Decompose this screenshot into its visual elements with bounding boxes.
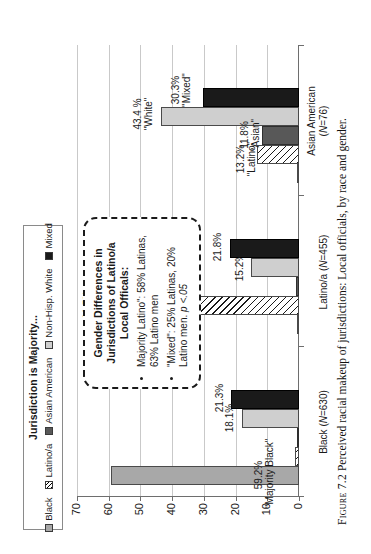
- datalabel-asian-mixed: 30.3% "Mixed": [170, 65, 192, 115]
- datalabel-latino-white: 15.2%: [234, 247, 245, 287]
- legend-swatch-asian-icon: [44, 427, 52, 435]
- callout-bullet-2: "Mixed": 25% Latinas, 20% Latino men. p …: [165, 228, 189, 367]
- cat-tick-0: [299, 496, 304, 497]
- bar-asian-black[interactable]: [297, 164, 299, 183]
- datalabel-asian-asian: 11.8% "Asian": [239, 110, 261, 160]
- datalabel-latino-mixed: 21.8%: [212, 227, 223, 267]
- legend-label-asian-american: Asian American: [43, 358, 54, 424]
- legend-label-black: Black: [43, 498, 54, 521]
- bar-latino-black[interactable]: [297, 315, 299, 334]
- figure-page: Jurisdiction is Majority... Black Latino…: [0, 0, 371, 554]
- callout-pvalue: p <.05: [177, 284, 188, 312]
- legend-swatch-latino-icon: [44, 481, 52, 489]
- tick-mark-0: [299, 497, 300, 501]
- legend-swatch-black-icon: [44, 524, 52, 532]
- bar-latino-white[interactable]: [250, 258, 298, 277]
- legend-label-mixed: Mixed: [43, 223, 54, 248]
- tick-label-20: 20: [229, 503, 240, 529]
- tick-mark-70: [77, 497, 78, 501]
- gridline-70: [77, 45, 78, 497]
- legend-items: Black Latino/a Asian American Non-Hisp. …: [43, 226, 54, 529]
- tick-label-50: 50: [134, 503, 145, 529]
- gender-differences-callout: Gender Differences in Jurisdictions of L…: [83, 217, 201, 389]
- bar-black-latino[interactable]: [294, 447, 298, 466]
- cat-tick-2: [299, 195, 304, 196]
- tick-label-0: 0: [293, 503, 304, 529]
- legend-item-black[interactable]: Black: [43, 498, 54, 532]
- figure-7-2: Jurisdiction is Majority... Black Latino…: [21, 15, 351, 539]
- datalabel-asian-white: 43.4 % "White": [132, 89, 154, 139]
- category-label-latino: Latino/a (N=455): [317, 212, 329, 332]
- bar-black-asian[interactable]: [297, 428, 299, 447]
- tick-label-70: 70: [71, 503, 82, 529]
- bar-black-white[interactable]: [241, 409, 298, 428]
- datalabel-black-majority: 59.2% "Majority Black": [253, 442, 275, 508]
- tick-mark-30: [203, 497, 204, 501]
- legend-swatch-white-icon: [44, 341, 52, 349]
- legend-label-non-hisp-white: Non-Hisp. White: [43, 269, 54, 338]
- legend-item-latino[interactable]: Latino/a: [43, 444, 54, 489]
- tick-label-40: 40: [166, 503, 177, 529]
- callout-title: Gender Differences in Jurisdictions of L…: [92, 228, 131, 378]
- tick-label-60: 60: [102, 503, 113, 529]
- callout-title-line2: Jurisdictions of Latino/a: [105, 242, 117, 363]
- tick-mark-50: [140, 497, 141, 501]
- tick-mark-60: [108, 497, 109, 501]
- bar-black-mixed[interactable]: [231, 390, 299, 409]
- legend-title: Jurisdiction is Majority...: [27, 226, 39, 529]
- chart-legend: Jurisdiction is Majority... Black Latino…: [23, 225, 63, 530]
- datalabel-black-mixed: 21.3%: [214, 378, 225, 418]
- callout-title-line1: Gender Differences in: [92, 248, 104, 357]
- bar-asian-asian[interactable]: [261, 126, 298, 145]
- callout-bullet-1: Majority Latino": 58% Latinas, 63% Latin…: [136, 228, 160, 367]
- category-label-black: Black (N=630): [317, 362, 329, 482]
- callout-title-line3: Local Officals:: [118, 267, 130, 339]
- tick-label-30: 30: [197, 503, 208, 529]
- cat-tick-1: [299, 346, 304, 347]
- legend-item-non-hisp-white[interactable]: Non-Hisp. White: [43, 269, 54, 349]
- legend-item-asian-american[interactable]: Asian American: [43, 358, 54, 435]
- legend-label-latino: Latino/a: [43, 444, 54, 478]
- figure-number: Figure 7.2: [335, 474, 347, 525]
- cat-tick-3: [299, 45, 304, 46]
- callout-bullet-list: Majority Latino": 58% Latinas, 63% Latin…: [136, 228, 190, 378]
- bar-asian-latino[interactable]: [257, 145, 299, 164]
- bar-asian-mixed[interactable]: [202, 88, 298, 107]
- bar-latino-asian[interactable]: [296, 277, 299, 296]
- category-label-asian-american: Asian American (N=76): [306, 61, 329, 181]
- legend-swatch-mixed-icon: [44, 252, 52, 260]
- tick-mark-40: [172, 497, 173, 501]
- legend-item-mixed[interactable]: Mixed: [43, 223, 54, 259]
- figure-caption-text: Perceived racial makeup of jurisdictions…: [335, 118, 347, 471]
- tick-mark-20: [235, 497, 236, 501]
- figure-caption: Figure 7.2 Perceived racial makeup of ju…: [334, 29, 348, 525]
- rotated-figure-wrapper: Jurisdiction is Majority... Black Latino…: [0, 0, 371, 554]
